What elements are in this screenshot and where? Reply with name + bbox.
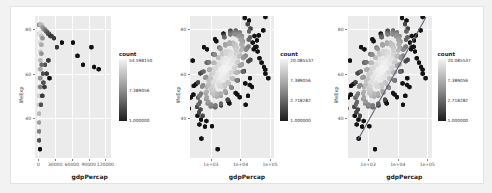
x-axis-tick-mark	[368, 159, 369, 161]
panel3-plot-area	[348, 16, 432, 158]
x-axis-tick-label: 1e+05	[262, 162, 277, 167]
hexbin-cell	[199, 136, 204, 141]
hexbin-cell	[250, 40, 255, 45]
gridline-vertical	[270, 16, 271, 158]
hexbin-cell	[41, 80, 46, 85]
legend-tick-mark	[446, 60, 448, 61]
hexbin-cell	[373, 147, 378, 152]
hexbin-cell	[417, 60, 422, 65]
panel3-x-axis-label: gdpPercap	[326, 173, 483, 180]
y-axis-tick-mark	[33, 74, 35, 75]
hexbin-cell	[263, 16, 268, 20]
x-axis-tick-mark	[211, 159, 212, 161]
legend-tick-mark	[127, 120, 129, 121]
legend-tick-label: 1.000000	[129, 118, 150, 123]
hexbin-cell	[40, 93, 45, 98]
legend-tick-label: 2.718282	[448, 98, 469, 103]
y-axis-tick-label: 80	[16, 27, 31, 32]
gridline-vertical	[72, 16, 73, 158]
legend-tick-label: 20.085537	[448, 58, 471, 63]
hexbin-cell	[203, 124, 208, 129]
legend-tick-label: 20.085537	[290, 58, 313, 63]
x-axis-tick-label: 30000	[48, 162, 62, 167]
x-axis-tick-label: 120000	[97, 162, 114, 167]
legend-tick-label: 1.000000	[448, 118, 469, 123]
panel1-legend-labels: 54.5981507.3890561.000000	[127, 59, 161, 121]
gridline-horizontal	[35, 118, 111, 119]
hexbin-cell	[403, 93, 408, 98]
legend-tick-label: 1.000000	[290, 118, 311, 123]
legend-tick-mark	[288, 100, 290, 101]
panel-log-scale: lifeExp 8060401e+031e+041e+05 count 20.0…	[168, 7, 325, 183]
panel1-legend-title: count	[119, 51, 161, 57]
x-axis-tick-mark	[398, 159, 399, 161]
hexbin-cell	[89, 45, 94, 50]
hexbin-cell	[243, 81, 248, 86]
hexbin-cell	[405, 76, 410, 81]
hexbin-cell	[190, 106, 191, 111]
legend-tick-label: 2.718282	[290, 98, 311, 103]
panel2-legend-row: 20.0855377.3890562.7182821.000000	[280, 59, 322, 121]
hexbin-cell	[400, 16, 405, 21]
hexbin-cell	[242, 16, 247, 21]
legend-tick-mark	[127, 60, 129, 61]
hexbin-cell	[255, 38, 260, 43]
y-axis-tick-mark	[188, 29, 190, 30]
panel2-y-axis-label: lifeExp	[176, 87, 182, 104]
hexbin-cell	[243, 102, 248, 107]
hexbin-cell	[252, 33, 257, 38]
x-axis-tick-mark	[105, 159, 106, 161]
panel2-legend-labels: 20.0855377.3890562.7182821.000000	[288, 59, 322, 121]
y-axis-tick-label: 60	[16, 71, 31, 76]
legend-tick-mark	[288, 120, 290, 121]
legend-tick-mark	[288, 60, 290, 61]
x-axis-tick-mark	[38, 159, 39, 161]
hexbin-cell	[257, 56, 262, 61]
panel1-legend-row: 54.5981507.3890561.000000	[119, 59, 161, 121]
panel1-legend-gradient-bar	[119, 59, 127, 121]
panel-log-scale-with-trendline: lifeExp 8060401e+031e+041e+05 count 20.0…	[326, 7, 483, 183]
legend-tick-label: 7.389056	[290, 77, 311, 82]
hexbin-cell	[92, 64, 97, 69]
hexbin-cell	[263, 71, 268, 76]
panel3-legend-row: 20.0855377.3890562.7182821.000000	[438, 59, 480, 121]
hexbin-cell	[348, 58, 353, 63]
hexbin-cell	[41, 71, 46, 76]
hexbin-cell	[39, 62, 44, 67]
hexbin-cell	[215, 147, 220, 152]
x-axis-tick-mark	[270, 159, 271, 161]
y-axis-tick-label: 40	[171, 116, 186, 121]
hexbin-cell	[400, 81, 405, 86]
gridline-vertical	[105, 16, 106, 158]
hexbin-cell	[60, 40, 65, 45]
panel1-legend: count 54.5981507.3890561.000000	[119, 51, 161, 121]
hexbin-cell	[256, 33, 261, 38]
y-axis-tick-label: 40	[16, 116, 31, 121]
hexbin-cell	[96, 67, 101, 72]
gridline-vertical	[89, 16, 90, 158]
x-axis-tick-label: 1e+03	[361, 162, 376, 167]
legend-tick-mark	[446, 80, 448, 81]
figure-frame: lifeExp 8060400300006000090000120000 cou…	[10, 6, 484, 184]
hexbin-cell	[246, 93, 251, 98]
y-axis-tick-mark	[33, 118, 35, 119]
legend-tick-mark	[127, 90, 129, 91]
hexbin-cell	[81, 62, 86, 67]
hexbin-cell	[46, 58, 51, 63]
y-axis-tick-mark	[188, 74, 190, 75]
hexbin-cell	[348, 106, 349, 111]
y-axis-tick-mark	[345, 74, 347, 75]
y-axis-tick-mark	[345, 118, 347, 119]
x-axis-tick-mark	[240, 159, 241, 161]
x-axis-tick-label: 0	[37, 162, 40, 167]
panel3-legend-title: count	[438, 51, 480, 57]
panel1-x-axis-label: gdpPercap	[11, 173, 168, 180]
y-axis-tick-mark	[33, 29, 35, 30]
x-axis-tick-label: 90000	[81, 162, 95, 167]
panel1-y-axis-label: lifeExp	[18, 87, 24, 104]
x-axis-tick-label: 1e+04	[390, 162, 405, 167]
panel2-legend: count 20.0855377.3890562.7182821.000000	[280, 51, 322, 121]
x-axis-tick-label: 1e+05	[420, 162, 435, 167]
figure-root: lifeExp 8060400300006000090000120000 cou…	[0, 0, 492, 193]
panel2-x-axis-label: gdpPercap	[168, 173, 325, 180]
